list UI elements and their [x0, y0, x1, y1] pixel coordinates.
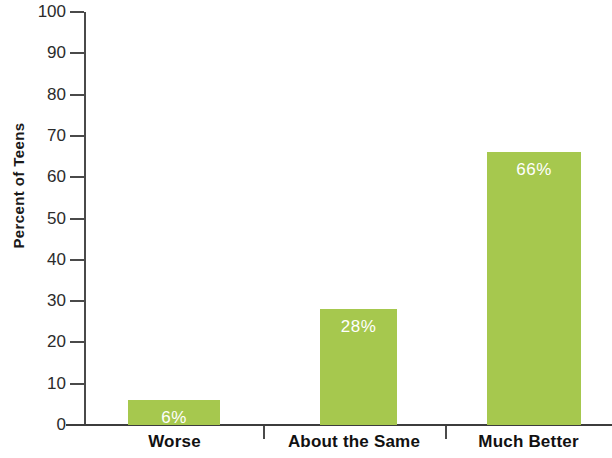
x-category-label: Worse [86, 432, 263, 452]
bar-value-label: 66% [487, 160, 581, 180]
bars-group: 6%28%66% [0, 0, 612, 425]
bar: 6% [128, 400, 220, 425]
x-category-label: About the Same [263, 432, 445, 452]
bar-value-label: 28% [320, 317, 397, 337]
x-category-label: Much Better [445, 432, 612, 452]
bar: 66% [487, 152, 581, 425]
bar-value-label: 6% [128, 408, 220, 428]
bar: 28% [320, 309, 397, 425]
bar-chart: Percent of Teens 1009080706050403020100 … [0, 0, 612, 458]
